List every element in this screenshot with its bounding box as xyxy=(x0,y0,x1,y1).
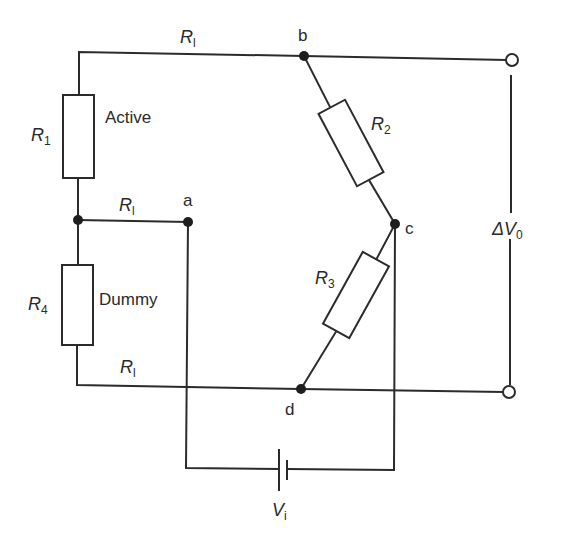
r3-d-lead xyxy=(301,330,337,389)
resistor-r1-active xyxy=(63,95,94,178)
resistor-r1-label: R1 xyxy=(31,125,51,148)
c-r3-lead xyxy=(376,224,395,260)
output-terminal-top xyxy=(506,54,518,66)
node-a xyxy=(183,217,193,227)
resistor-r2 xyxy=(319,100,384,186)
node-d xyxy=(296,384,306,394)
top-lead-wire xyxy=(79,52,506,95)
lead-resistance-middle-label: Rl xyxy=(119,195,135,218)
battery-icon xyxy=(279,450,287,490)
output-voltage-label: ΔV0 xyxy=(491,219,523,242)
resistor-r4-label: R4 xyxy=(28,294,48,317)
input-voltage-label: Vi xyxy=(272,500,287,523)
middle-lead-wire xyxy=(78,220,188,222)
resistor-r4-dummy xyxy=(62,265,93,345)
active-label: Active xyxy=(105,108,151,127)
r2-c-lead xyxy=(369,180,395,224)
lead-resistance-bottom-label: Rl xyxy=(120,357,136,380)
resistor-r3 xyxy=(323,252,389,338)
b-r2-lead xyxy=(304,56,330,107)
node-d-label: d xyxy=(285,400,294,419)
bottom-lead-wire xyxy=(77,345,503,392)
node-b xyxy=(299,51,309,61)
resistor-r2-label: R2 xyxy=(371,114,391,137)
node-c xyxy=(390,219,400,229)
resistor-r3-label: R3 xyxy=(315,268,335,291)
a-to-battery-wire xyxy=(186,222,279,469)
junction-node xyxy=(73,215,83,225)
node-b-label: b xyxy=(298,26,307,45)
node-a-label: a xyxy=(183,191,193,210)
output-terminal-bottom xyxy=(503,386,515,398)
dummy-label: Dummy xyxy=(99,290,158,309)
lead-resistance-top-label: Rl xyxy=(180,27,196,50)
wheatstone-bridge-diagram: a b c d Rl Rl Rl R1 Active R2 R3 R4 Dumm… xyxy=(0,0,564,540)
node-c-label: c xyxy=(405,219,414,238)
